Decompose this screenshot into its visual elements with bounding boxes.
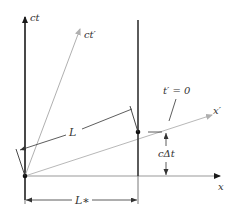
c-delta-t-label: cΔt [158, 148, 176, 159]
L-extension-right [130, 106, 138, 132]
length-L-star-label: L∗ [74, 194, 90, 207]
ct-axis-label: ct [30, 12, 41, 23]
L-dimension-line-right [82, 109, 132, 129]
ct-prime-axis [25, 29, 80, 176]
t-prime-zero-label: t′ = 0 [163, 85, 191, 96]
x-axis-label: x [218, 181, 224, 192]
spacetime-diagram: ct ct′ x x′ L t′ = 0 cΔt L∗ [0, 0, 238, 219]
length-L-label: L [68, 126, 76, 139]
L-extension-left [16, 149, 25, 176]
L-dimension-line-left [20, 135, 66, 150]
x-prime-axis-label: x′ [213, 105, 222, 116]
ct-prime-axis-label: ct′ [84, 29, 97, 40]
t-prime-zero-leader [169, 99, 176, 121]
x-prime-axis [25, 115, 212, 176]
